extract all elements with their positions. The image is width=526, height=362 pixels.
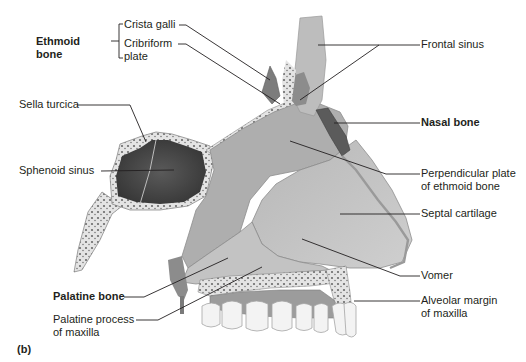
ethmoid-label-line1: Ethmoid bbox=[36, 35, 80, 48]
panel-label: (b) bbox=[17, 343, 31, 355]
frontal-sinus-label: Frontal sinus bbox=[421, 38, 484, 51]
perpendicular-label-line2: of ethmoid bone bbox=[421, 180, 516, 193]
sphenoid-sinus-label: Sphenoid sinus bbox=[19, 164, 94, 177]
ethmoid-label-line2: bone bbox=[36, 48, 80, 61]
sella-turcica-label: Sella turcica bbox=[19, 98, 79, 111]
ethmoid-bone-label: Ethmoid bone bbox=[36, 35, 80, 61]
cribriform-label-line1: Cribriform bbox=[124, 37, 172, 50]
vomer-label: Vomer bbox=[421, 269, 453, 282]
palatine-process-line1: Palatine process bbox=[53, 313, 134, 326]
teeth bbox=[202, 301, 356, 337]
alveolar-label-line2: of maxilla bbox=[421, 307, 497, 320]
crista-galli-label: Crista galli bbox=[124, 18, 175, 31]
perpendicular-plate-label: Perpendicular plate of ethmoid bone bbox=[421, 167, 516, 193]
perpendicular-label-line1: Perpendicular plate bbox=[421, 167, 516, 180]
palatine-process-label: Palatine process of maxilla bbox=[53, 313, 134, 339]
palatine-process-line2: of maxilla bbox=[53, 326, 134, 339]
septal-cartilage-label: Septal cartilage bbox=[421, 207, 497, 220]
cribriform-label-line2: plate bbox=[124, 50, 172, 63]
nasal-bone-label: Nasal bone bbox=[421, 116, 480, 129]
alveolar-label-line1: Alveolar margin bbox=[421, 294, 497, 307]
palatine-bone-label: Palatine bone bbox=[53, 290, 125, 303]
anatomy-figure: Ethmoid bone Crista galli Cribriform pla… bbox=[0, 0, 526, 362]
alveolar-margin-label: Alveolar margin of maxilla bbox=[421, 294, 497, 320]
cribriform-plate-label: Cribriform plate bbox=[124, 37, 172, 63]
